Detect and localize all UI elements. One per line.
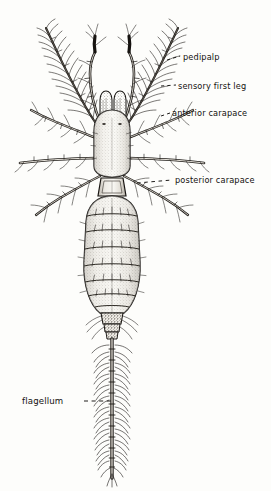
- label-pedipalp: pedipalp: [183, 53, 220, 62]
- leader-posterior-carapace: [137, 180, 172, 183]
- label-posterior-carapace: posterior carapace: [175, 176, 255, 185]
- pygidium: [86, 313, 138, 339]
- sensory-first-leg-left: [37, 19, 97, 122]
- label-sensory-first-leg: sensory first leg: [178, 82, 246, 91]
- flagellum: [92, 339, 132, 487]
- anterior-carapace: [91, 110, 134, 177]
- walking-leg-right-3: [128, 154, 209, 172]
- leader-sensory-first-leg: [161, 85, 176, 86]
- walking-leg-left-3: [15, 154, 96, 172]
- opisthosoma: [78, 196, 146, 313]
- walking-legs-right: [124, 102, 209, 222]
- schizomid-anatomy-figure: [0, 0, 271, 491]
- label-anterior-carapace: anterior carapace: [172, 109, 247, 118]
- label-flagellum: flagellum: [22, 397, 63, 406]
- sensory-first-leg-right: [127, 19, 187, 122]
- walking-legs-left: [15, 102, 100, 222]
- leader-anterior-carapace: [161, 113, 170, 116]
- posterior-carapace: [98, 178, 126, 196]
